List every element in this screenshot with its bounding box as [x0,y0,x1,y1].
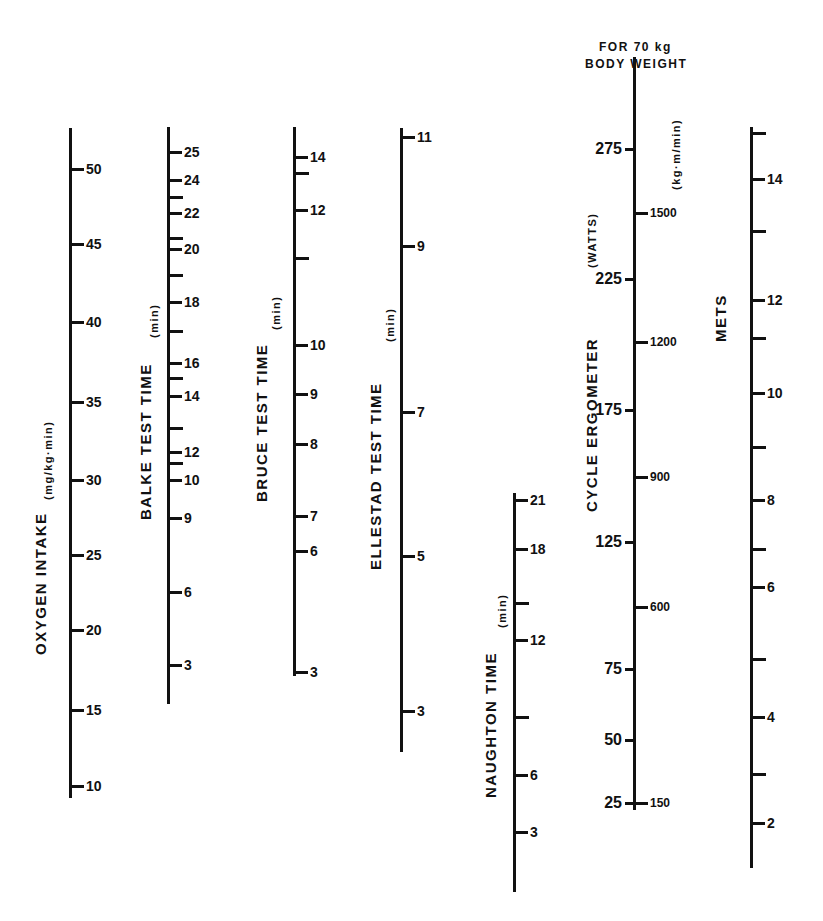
balke-tick [169,591,182,594]
bruce-tick [295,209,308,212]
balke-tick-label: 24 [184,173,200,187]
oxygen-axis-line [69,128,72,798]
cycle-tick-label: 900 [650,470,670,484]
bruce-tick-label: 8 [310,437,318,451]
balke-tick [169,517,182,520]
bruce-tick-label: 3 [310,665,318,679]
cycle-tick [635,476,648,479]
naughton-tick [515,831,528,834]
bruce-tick-label: 9 [310,387,318,401]
balke-tick-label: 22 [184,206,200,220]
mets-tick-label: 8 [767,493,775,507]
ellestad-tick [402,710,415,713]
balke-axis-title: BALKE TEST TIME [137,363,154,520]
bruce-tick-label: 10 [310,338,326,352]
balke-tick [169,274,183,277]
oxygen-tick [71,321,84,324]
mets-tick [752,499,765,502]
bruce-axis-title: BRUCE TEST TIME [253,344,270,502]
naughton-tick-label: 6 [530,768,538,782]
balke-tick [169,151,182,154]
bruce-axis-unit: (min) [270,296,282,330]
oxygen-tick [71,554,84,557]
mets-tick [752,548,766,551]
ellestad-axis-unit: (min) [384,308,396,342]
balke-tick [169,427,183,430]
oxygen-tick [71,401,84,404]
balke-tick [169,179,182,182]
cycle-tick-label: 225 [595,272,622,286]
balke-tick [169,395,182,398]
naughton-tick [515,774,528,777]
mets-tick [752,230,766,233]
balke-axis-unit: (min) [148,304,160,338]
cycle-tick [635,606,648,609]
oxygen-tick [71,709,84,712]
balke-tick-label: 12 [184,445,200,459]
naughton-axis-unit: (min) [496,594,508,628]
bruce-tick [295,443,308,446]
oxygen-tick [71,785,84,788]
mets-tick [752,178,765,181]
bruce-tick [295,671,308,674]
oxygen-tick-label: 25 [86,548,102,562]
cycle-tick [635,212,648,215]
cycle-tick-label: 1200 [650,335,677,349]
oxygen-tick-label: 45 [86,237,102,251]
oxygen-tick [71,243,84,246]
balke-tick [169,664,182,667]
cycle-tick-label: 150 [650,796,670,810]
bruce-tick [295,344,308,347]
cycle-tick-label: 75 [604,662,622,676]
ellestad-tick-label: 9 [417,239,425,253]
oxygen-tick-label: 50 [86,162,102,176]
cycle-tick [625,802,635,805]
mets-tick [752,586,765,589]
oxygen-tick-label: 35 [86,395,102,409]
balke-tick-label: 6 [184,585,192,599]
naughton-tick [515,716,529,719]
bruce-tick [295,550,308,553]
balke-tick [169,237,183,240]
naughton-tick [515,639,528,642]
cycle-tick-label: 600 [650,600,670,614]
ellestad-tick [402,245,415,248]
balke-tick-label: 10 [184,473,200,487]
balke-tick [169,377,183,380]
mets-tick [752,716,765,719]
bruce-tick [295,156,308,159]
balke-tick-label: 3 [184,658,192,672]
bruce-tick-label: 7 [310,509,318,523]
mets-tick-label: 14 [767,172,783,186]
mets-tick-label: 2 [767,816,775,830]
mets-tick-label: 10 [767,386,783,400]
oxygen-tick [71,479,84,482]
naughton-tick [515,548,528,551]
balke-tick [169,451,182,454]
ellestad-tick [402,555,415,558]
mets-tick [752,392,765,395]
bruce-tick [295,172,309,175]
mets-tick [752,299,765,302]
balke-tick-label: 20 [184,242,200,256]
oxygen-tick [71,629,84,632]
cycle-tick [625,739,635,742]
oxygen-tick-label: 15 [86,703,102,717]
bruce-tick [295,257,309,260]
cycle-header-line2: BODY WEIGHT [585,57,687,71]
cycle-header-line1: FOR 70 kg [599,40,672,54]
ellestad-tick-label: 7 [417,405,425,419]
mets-tick-label: 12 [767,293,783,307]
mets-tick-label: 6 [767,580,775,594]
mets-axis-title: METS [712,294,729,342]
balke-tick-label: 14 [184,389,200,403]
oxygen-tick [71,168,84,171]
cycle-tick [625,668,635,671]
bruce-tick-label: 14 [310,150,326,164]
oxygen-tick-label: 30 [86,473,102,487]
mets-tick [752,658,766,661]
mets-tick-label: 4 [767,710,775,724]
balke-tick-label: 16 [184,356,200,370]
balke-tick [169,301,182,304]
naughton-axis-title: NAUGHTON TIME [482,652,499,798]
